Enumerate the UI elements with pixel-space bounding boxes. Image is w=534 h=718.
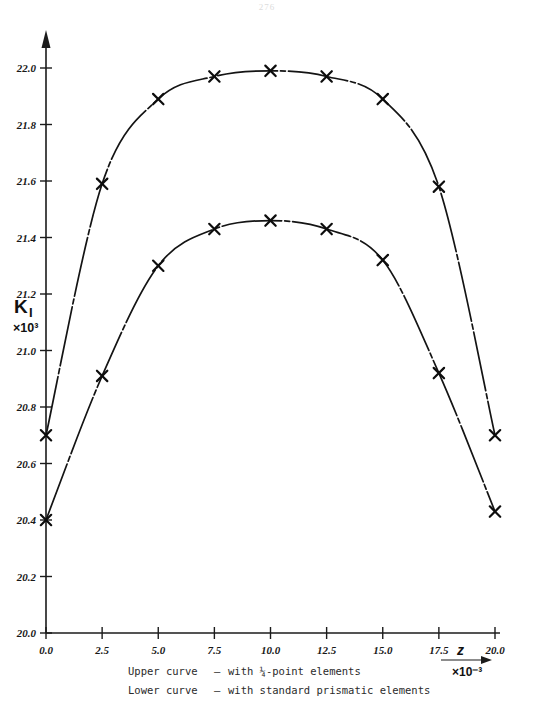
y-axis	[42, 30, 51, 633]
caption-line-1-label: Upper curve	[128, 665, 198, 677]
x-tick-label: 2.5	[94, 644, 109, 656]
data-point-marker	[434, 181, 444, 191]
x-tick-label: 10.0	[261, 644, 281, 656]
x-tick-label: 15.0	[373, 644, 393, 656]
y-axis-title: K I ×10³	[13, 296, 38, 335]
y-axis-arrowhead	[42, 30, 51, 48]
data-point-marker	[153, 94, 163, 104]
chart-plot: 20.020.220.420.620.821.021.221.421.621.8…	[0, 0, 534, 718]
caption-line-2-text: with standard prismatic elements	[228, 684, 430, 696]
y-tick-label: 20.2	[16, 571, 37, 583]
x-tick-label: 0.0	[39, 644, 53, 656]
caption-line-2-label: Lower curve	[128, 684, 198, 696]
figure-container: 276 20.020.220.420.620.821.021.221.421.6…	[0, 0, 534, 718]
data-point-marker	[209, 224, 219, 234]
y-axis-title-subscript: I	[29, 305, 33, 320]
curve-upper	[46, 71, 495, 435]
x-axis-arrowhead	[481, 656, 492, 664]
curve-lower	[46, 221, 495, 520]
data-point-marker	[153, 261, 163, 271]
y-tick-label: 21.8	[16, 119, 37, 131]
y-tick-label: 21.4	[16, 232, 37, 244]
data-point-marker	[321, 224, 331, 234]
x-tick-label: 17.5	[429, 644, 449, 656]
x-tick-label: 12.5	[317, 644, 337, 656]
x-axis-title-scale: ×10⁻³	[452, 665, 482, 679]
y-tick-label: 20.4	[16, 514, 37, 526]
x-tick-label: 5.0	[151, 644, 165, 656]
x-axis-title-symbol: z	[456, 642, 464, 658]
x-tick-label: 20.0	[484, 644, 505, 656]
y-tick-label: 21.0	[16, 345, 37, 357]
x-axis-title: z ×10⁻³	[441, 642, 492, 679]
y-tick-label: 21.6	[16, 175, 37, 187]
caption-block: Upper curve – with ¼-point elements Lowe…	[128, 665, 430, 696]
data-point-marker	[97, 179, 107, 189]
data-point-marker	[378, 255, 388, 265]
x-tick-label: 7.5	[208, 644, 222, 656]
y-axis-title-scale: ×10³	[13, 321, 38, 335]
markers-group	[41, 66, 500, 526]
caption-line-1-text: with ¼-point elements	[228, 665, 361, 677]
data-point-marker	[434, 368, 444, 378]
data-point-marker	[378, 94, 388, 104]
y-tick-label: 20.6	[16, 458, 37, 470]
data-point-marker	[490, 506, 500, 516]
y-tick-label: 22.0	[16, 62, 37, 74]
x-tick-group: 0.02.55.07.510.012.515.017.520.0	[39, 627, 505, 656]
y-tick-label: 20.8	[16, 401, 37, 413]
caption-line-2-dash: –	[214, 684, 221, 696]
data-point-marker	[97, 371, 107, 381]
y-tick-label: 20.0	[16, 627, 37, 639]
caption-line-1-dash: –	[214, 665, 221, 677]
curves-group	[46, 71, 495, 520]
y-axis-title-symbol: K	[14, 296, 28, 317]
